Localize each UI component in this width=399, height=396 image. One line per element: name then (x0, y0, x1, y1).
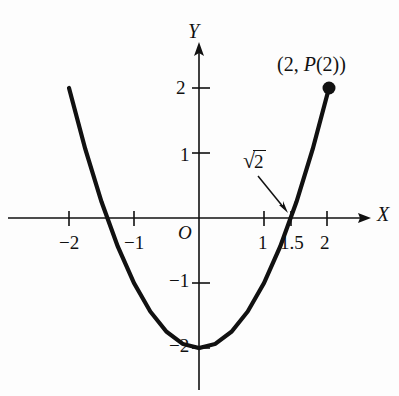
x-axis-label: X (377, 203, 389, 226)
y-tick-label-1: 1 (180, 144, 190, 166)
endpoint-label-open: (2, (277, 53, 304, 75)
endpoint-coordinate-label: (2, P(2)) (277, 53, 346, 76)
radical-group: √2 (243, 150, 266, 172)
endpoint-label-function: P (304, 53, 316, 75)
endpoint-marker (323, 82, 336, 95)
y-axis-label: Y (188, 20, 199, 43)
root-annotation-label: √2 (243, 150, 266, 173)
radicand-value: 2 (253, 150, 266, 172)
y-tick-label-minus-1: −1 (169, 270, 189, 292)
parabola-figure: Y X O 2 1 −1 −2 −2 −1 1 1.5 2 (2, P(2)) … (0, 0, 399, 396)
x-tick-label-1-5: 1.5 (280, 232, 304, 254)
y-axis (194, 42, 204, 390)
root-leader-arrow (258, 176, 288, 213)
endpoint-label-close: ) (339, 53, 346, 75)
y-tick-label-minus-2: −2 (169, 335, 189, 357)
x-tick-label-minus-2: −2 (59, 232, 79, 254)
origin-label: O (178, 222, 192, 244)
x-tick-label-1: 1 (258, 232, 268, 254)
x-tick-label-2: 2 (320, 232, 330, 254)
x-tick-label-minus-1: −1 (124, 232, 144, 254)
endpoint-label-argument: (2) (316, 53, 339, 75)
y-tick-label-2: 2 (176, 77, 186, 99)
